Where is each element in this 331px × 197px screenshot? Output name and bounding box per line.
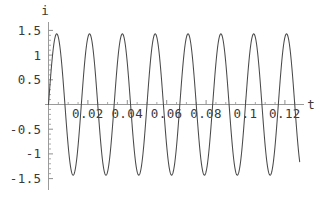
- y-tick-label: -0.5: [10, 122, 42, 137]
- y-tick-label: 0.5: [18, 72, 42, 87]
- plot-background: [0, 0, 331, 197]
- x-axis-label: t: [307, 97, 315, 112]
- y-tick-label: -1: [26, 146, 42, 161]
- x-tick-label: 0.04: [111, 106, 143, 121]
- plot-canvas: 1.510.5-0.5-1-1.5 0.020.040.060.080.10.1…: [0, 0, 331, 197]
- y-axis-label: i: [41, 3, 49, 18]
- y-tick-label: 1.5: [18, 23, 42, 38]
- y-tick-label: -1.5: [10, 171, 42, 186]
- x-tick-label: 0.06: [151, 106, 183, 121]
- x-tick-label: 0.08: [190, 106, 222, 121]
- y-tick-label: 1: [34, 48, 42, 63]
- plot-figure: 1.510.5-0.5-1-1.5 0.020.040.060.080.10.1…: [0, 0, 331, 197]
